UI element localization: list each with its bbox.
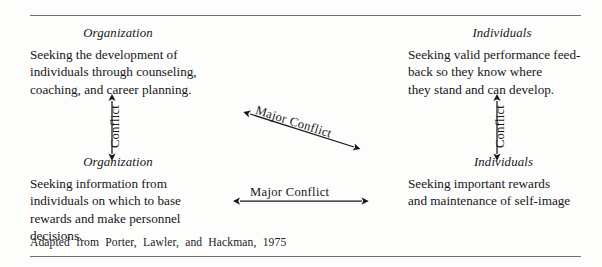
- quadrant-bottom-left: Organization Seeking information from in…: [30, 155, 242, 244]
- quadrant-top-right-body: Seeking valid performance feed- back so …: [408, 46, 588, 98]
- quadrant-bottom-left-heading: Organization: [30, 155, 242, 170]
- quadrant-top-right: Individuals Seeking valid performance fe…: [408, 26, 588, 98]
- bottom-divider-rule: [30, 256, 581, 257]
- quadrant-bottom-right-heading: Individuals: [408, 155, 593, 170]
- conflict-matrix-figure: Organization Seeking the development of …: [0, 0, 602, 267]
- bottom-horizontal-major-conflict-label: Major Conflict: [250, 185, 329, 200]
- quadrant-bottom-right: Individuals Seeking important rewards an…: [408, 155, 593, 210]
- quadrant-top-right-heading: Individuals: [408, 26, 588, 41]
- diagonal-major-conflict-label: Major Conflict: [253, 103, 333, 142]
- quadrant-top-left-heading: Organization: [30, 26, 242, 41]
- top-divider-rule: [30, 15, 581, 16]
- right-vertical-conflict-label: Conflict: [493, 105, 508, 148]
- quadrant-top-left-body: Seeking the development of individuals t…: [30, 46, 242, 98]
- left-vertical-conflict-label: Conflict: [108, 105, 123, 148]
- quadrant-bottom-right-body: Seeking important rewards and maintenanc…: [408, 175, 593, 210]
- quadrant-bottom-left-body: Seeking information from individuals on …: [30, 175, 242, 244]
- source-attribution: Adapted from Porter, Lawler, and Hackman…: [30, 236, 500, 249]
- quadrant-top-left: Organization Seeking the development of …: [30, 26, 242, 98]
